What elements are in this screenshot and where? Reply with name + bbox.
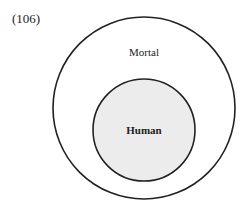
- euler-diagram: [0, 0, 246, 209]
- inner-set-label: Human: [126, 124, 161, 136]
- outer-set-label: Mortal: [129, 46, 159, 58]
